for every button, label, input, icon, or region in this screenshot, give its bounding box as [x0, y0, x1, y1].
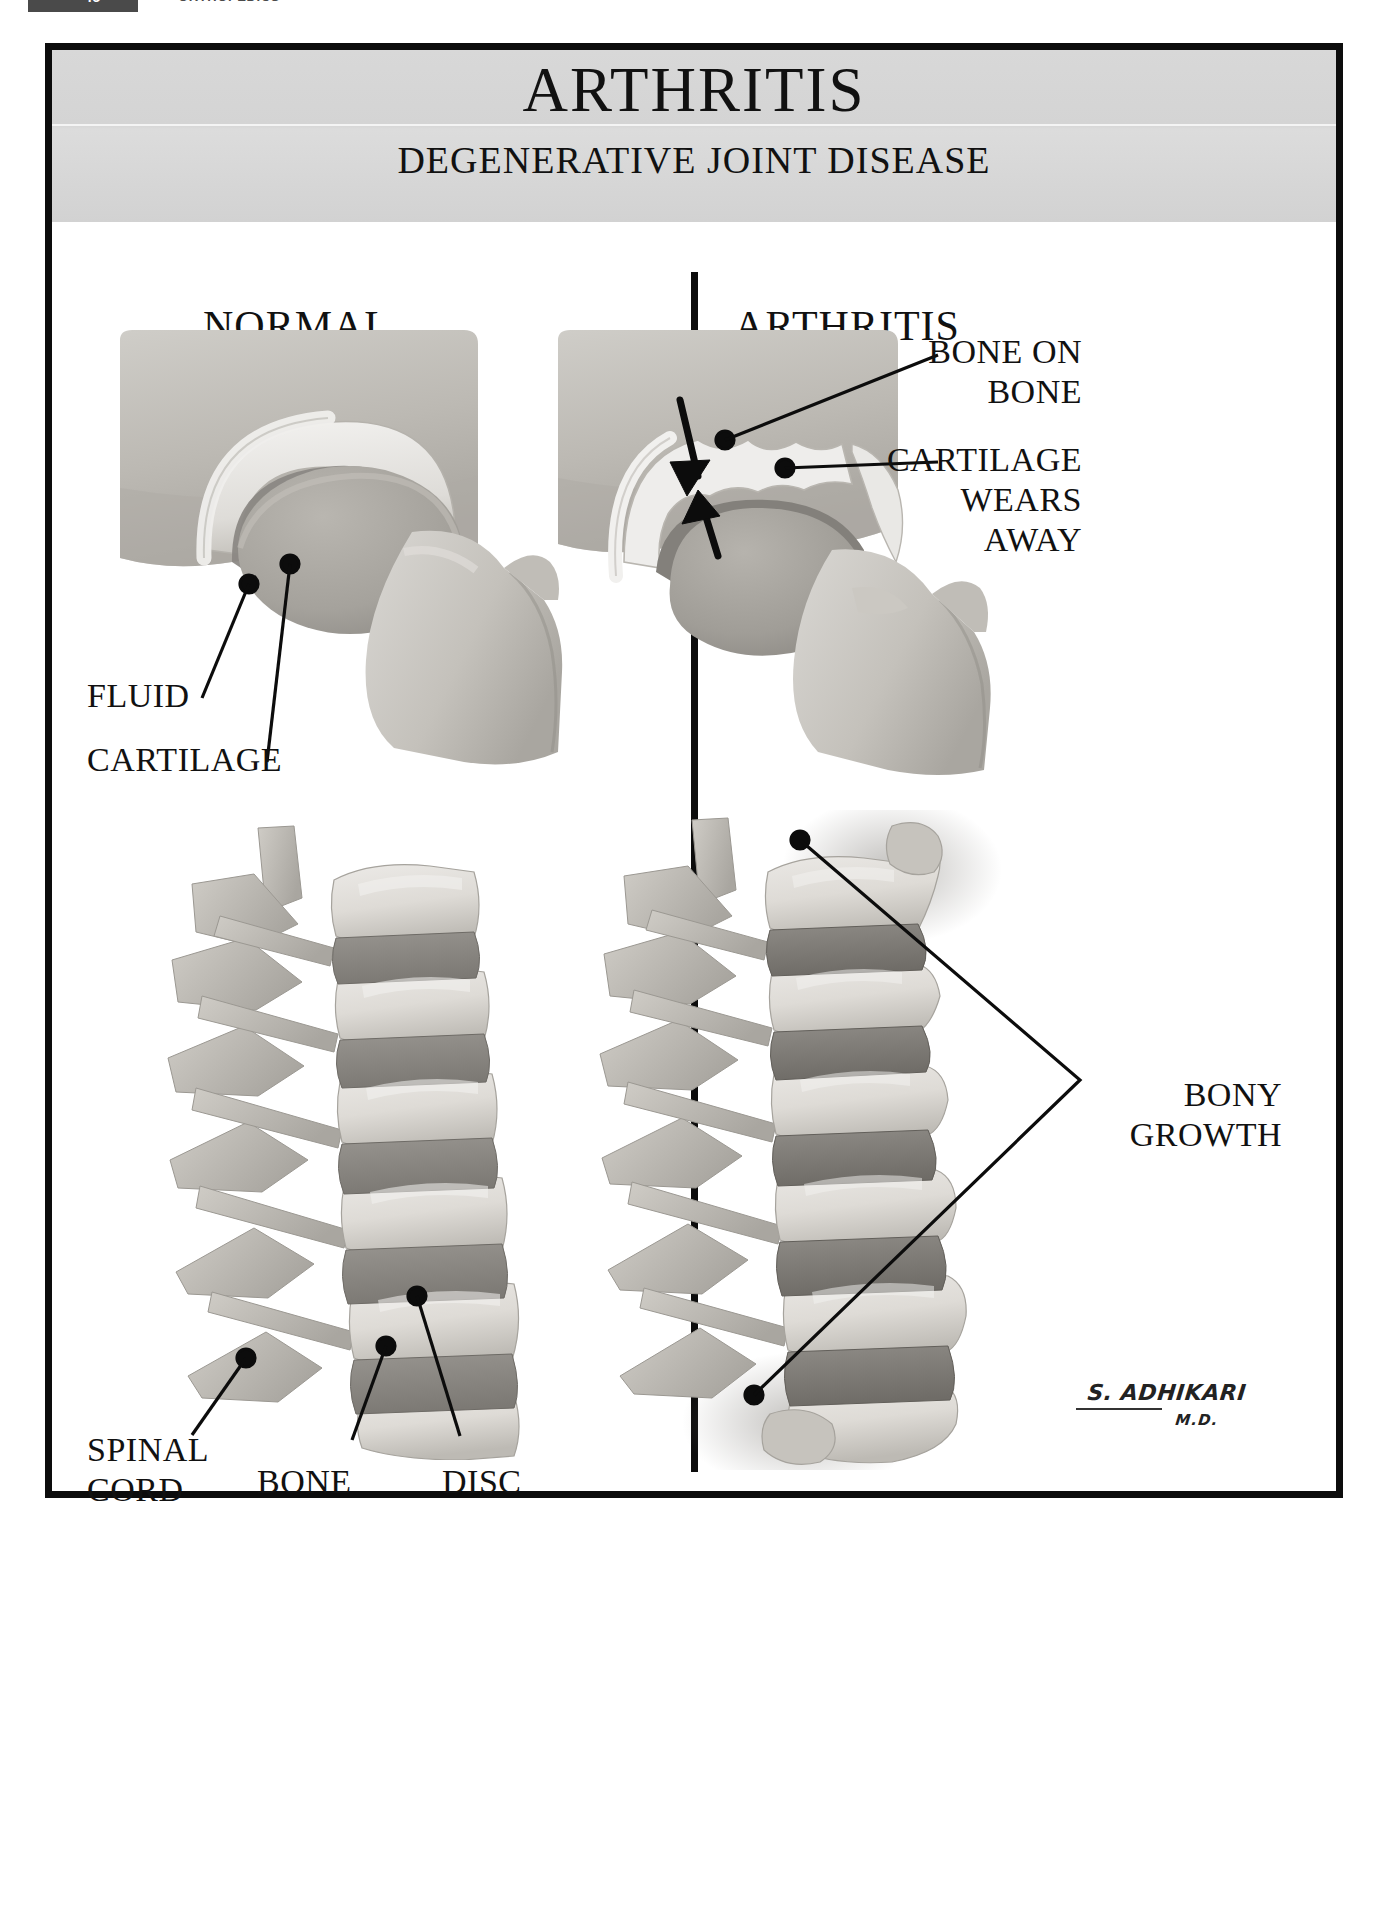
label-bony-growth: BONY GROWTH: [1052, 1075, 1282, 1155]
label-cartilage: CARTILAGE: [87, 740, 282, 780]
label-cartilage-wears-away: CARTILAGE WEARS AWAY: [842, 440, 1082, 560]
label-fluid: FLUID: [87, 676, 190, 716]
figure-normal-spine: [162, 820, 582, 1460]
signature-credential: M.D.: [1131, 1411, 1263, 1429]
poster-title: ARTHRITIS: [52, 55, 1336, 125]
page-running-header: 46 ORTHOPEDICS: [0, 0, 1390, 14]
label-bone-on-bone: BONE ON BONE: [842, 332, 1082, 412]
page-number: 46: [62, 0, 122, 10]
label-spinal-cord: SPINAL CORD: [87, 1430, 209, 1510]
figure-arthritic-spine: [592, 810, 1032, 1470]
section-title: ORTHOPEDICS: [178, 0, 280, 10]
label-disc: DISC: [442, 1462, 521, 1502]
artist-signature: S. ADHIKARI M.D.: [1072, 1380, 1262, 1429]
title-banner: ARTHRITIS DEGENERATIVE JOINT DISEASE: [52, 50, 1336, 222]
poster-frame: ARTHRITIS DEGENERATIVE JOINT DISEASE NOR…: [45, 43, 1343, 1498]
poster-subtitle: DEGENERATIVE JOINT DISEASE: [52, 134, 1336, 186]
signature-rule: [1076, 1408, 1162, 1410]
signature-name: S. ADHIKARI: [1071, 1380, 1264, 1405]
label-bone: BONE: [257, 1462, 352, 1502]
